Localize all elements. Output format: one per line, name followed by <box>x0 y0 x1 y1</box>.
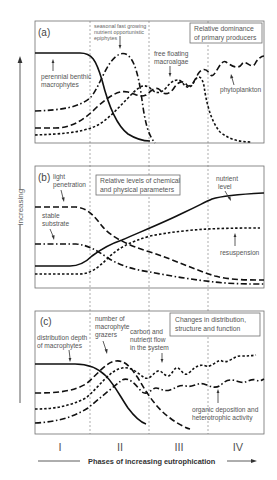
label-macroalgae-2: macroalgae <box>154 58 189 66</box>
label-substrate-1: stable <box>42 212 60 219</box>
x-axis-label: Phases of increasing eutrophication <box>88 457 216 466</box>
panel-b-tag: (b) <box>38 172 50 183</box>
panel-a: (a) Relative dominance of primary produc… <box>35 21 264 143</box>
arrow-up-icon <box>230 74 233 79</box>
label-nutrient-1: nutrient <box>216 175 238 182</box>
arrow-right-icon <box>251 459 257 463</box>
label-grazers-3: grazers <box>95 331 118 339</box>
label-depth-2: of macrophytes <box>37 342 83 350</box>
label-nutrient-2: level <box>218 183 232 190</box>
panel-b-title-line2: and physical parameters <box>100 186 175 194</box>
panel-c-tag: (c) <box>40 316 52 327</box>
y-axis-label: increasing <box>16 189 25 225</box>
arrow-down-icon <box>62 197 65 202</box>
eutrophication-diagram: increasing (a) Relative dominance of pri… <box>0 0 277 480</box>
panel-b: (b) Relative levels of chemical and phys… <box>35 166 264 288</box>
label-macroalgae-1: free floating <box>154 50 189 58</box>
x-axis-caption: Phases of increasing eutrophication <box>38 457 257 466</box>
label-carbon-2: nutrient flow <box>130 336 166 343</box>
label-epiphytes-3: epiphytes <box>94 35 117 41</box>
curve-grazers <box>35 361 190 429</box>
label-light-1: light <box>53 173 65 181</box>
label-carbon-3: in the system <box>130 344 169 352</box>
arrow-depth <box>69 350 70 358</box>
label-depth-1: distribution depth <box>37 334 88 342</box>
label-organic-2: heterotrophic activity <box>192 414 253 422</box>
arrow-down-icon <box>69 358 72 362</box>
label-perennial-2: macrophytes <box>41 81 79 89</box>
arrow-phytoplankton <box>232 78 234 85</box>
label-resuspension: resuspension <box>220 249 260 257</box>
arrow-light <box>61 190 63 198</box>
panel-a-title-line2: of primary producers <box>194 34 257 42</box>
phase-label-I: I <box>58 441 61 453</box>
panel-a-tag: (a) <box>38 27 50 38</box>
arrow-up-icon <box>234 233 237 237</box>
label-perennial-1: perennial benthic <box>41 73 92 81</box>
y-axis: increasing <box>16 56 25 403</box>
curve-carbon-nutrient-flow <box>35 355 256 409</box>
arrow-down-icon <box>105 349 108 354</box>
arrow-up-icon <box>52 59 55 63</box>
phase-labels: I II III IV <box>58 441 243 453</box>
arrow-grazers <box>103 341 106 350</box>
arrow-down-icon <box>161 359 164 363</box>
label-grazers-1: number of <box>95 315 125 322</box>
arrow-down-icon <box>169 73 172 77</box>
label-phytoplankton: phytoplankton <box>220 86 261 94</box>
phase-label-IV: IV <box>233 441 244 453</box>
label-carbon-1: carbon and <box>130 328 163 335</box>
arrow-up-icon <box>18 56 23 63</box>
panel-b-title-line1: Relative levels of chemical <box>100 177 181 184</box>
arrow-down-icon <box>119 45 122 49</box>
arrow-down-icon <box>52 235 55 240</box>
arrow-up-icon <box>217 389 220 393</box>
phase-label-III: III <box>174 441 183 453</box>
panel-c-title-line2: structure and function <box>175 325 241 332</box>
label-light-2: penetration <box>53 181 86 189</box>
curve-perennial-macrophytes <box>35 53 150 141</box>
panel-c: (c) Changes in distribution, structure a… <box>35 311 264 434</box>
label-substrate-2: substrate <box>42 220 69 227</box>
label-grazers-2: macrophyte <box>95 323 130 331</box>
label-organic-1: organic deposition and <box>192 406 259 414</box>
phase-label-II: II <box>117 441 123 453</box>
panel-a-title-line1: Relative dominance <box>194 25 254 32</box>
panel-c-title-line1: Changes in distribution, <box>175 316 246 324</box>
arrow-substrate <box>50 229 53 236</box>
